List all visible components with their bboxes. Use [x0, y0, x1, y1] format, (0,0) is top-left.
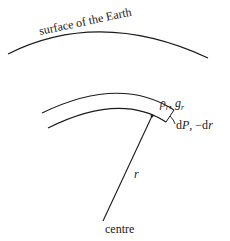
shell-point-dot: [151, 115, 154, 118]
density-gravity-label: ρr, gr: [159, 96, 185, 112]
shell-thickness-brace: [170, 116, 175, 124]
radius-label: r: [134, 167, 139, 181]
earth-shell-diagram: surface of the Earth ρr, gr dP, −dr r ce…: [0, 0, 230, 241]
earth-surface-arc: [8, 32, 208, 58]
centre-label: centre: [105, 222, 134, 236]
radius-line: [103, 116, 152, 221]
pressure-thickness-label: dP, −dr: [176, 118, 213, 132]
shell-outer-arc: [42, 93, 174, 113]
